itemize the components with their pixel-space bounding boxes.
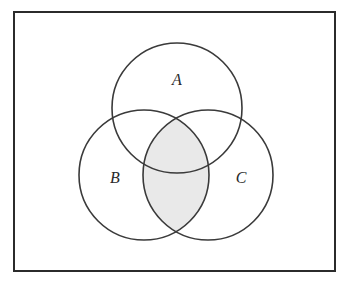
set-a-label: A [171,71,182,88]
set-b-label: B [110,169,120,186]
venn-diagram: A B C [0,0,344,283]
set-c-label: C [236,169,247,186]
